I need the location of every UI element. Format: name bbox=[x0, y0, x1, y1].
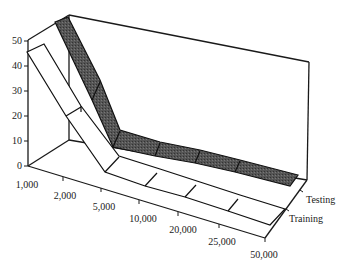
depth-axis-ticks bbox=[286, 190, 303, 211]
x-tick-label: 50,000 bbox=[250, 249, 278, 260]
x-tick-label: 10,000 bbox=[129, 213, 157, 224]
x-tick-label: 20,000 bbox=[169, 224, 197, 235]
x-tick-label: 2,000 bbox=[54, 190, 77, 201]
x-tick-label: 1,000 bbox=[16, 179, 39, 190]
y-tick-label: 40 bbox=[12, 60, 22, 71]
y-tick-label: 20 bbox=[12, 110, 22, 121]
series-testing-ribbon bbox=[55, 17, 298, 186]
depth-label-training: Training bbox=[289, 213, 323, 224]
x-tick-label: 25,000 bbox=[208, 236, 236, 247]
y-tick-label: 50 bbox=[12, 35, 22, 46]
y-tick-label: 0 bbox=[17, 160, 22, 171]
depth-axis-labels: Testing Training bbox=[289, 194, 335, 224]
y-tick-label: 10 bbox=[12, 135, 22, 146]
ribbon-chart: 0 10 20 30 40 50 bbox=[0, 0, 339, 266]
x-axis-labels: 1,000 2,000 5,000 10,000 20,000 25,000 5… bbox=[16, 179, 278, 260]
x-tick-label: 5,000 bbox=[93, 201, 116, 212]
depth-label-testing: Testing bbox=[306, 194, 335, 205]
y-axis-labels: 0 10 20 30 40 50 bbox=[12, 35, 22, 171]
y-tick-label: 30 bbox=[12, 85, 22, 96]
